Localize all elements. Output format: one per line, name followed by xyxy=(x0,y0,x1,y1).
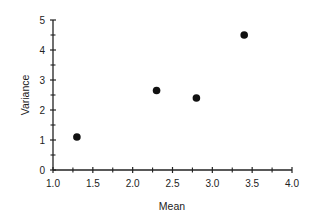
x-tick-label: 1.0 xyxy=(46,178,60,189)
y-tick-label: 1 xyxy=(39,135,45,146)
x-tick-label: 3.0 xyxy=(205,178,219,189)
data-point xyxy=(193,94,201,102)
x-tick-label: 1.5 xyxy=(86,178,100,189)
y-axis-label: Variance xyxy=(19,75,31,116)
x-axis: 1.01.52.02.53.03.54.0 xyxy=(46,167,299,189)
y-tick-label: 2 xyxy=(39,105,45,116)
x-tick-label: 4.0 xyxy=(285,178,299,189)
y-axis: 012345 xyxy=(39,15,56,176)
y-tick-label: 3 xyxy=(39,75,45,86)
x-tick-label: 2.5 xyxy=(166,178,180,189)
x-tick-label: 2.0 xyxy=(126,178,140,189)
y-tick-label: 5 xyxy=(39,15,45,26)
data-point xyxy=(240,31,248,39)
x-axis-label: Mean xyxy=(159,200,185,212)
scatter-chart: 012345 1.01.52.02.53.03.54.0 Mean Varian… xyxy=(0,0,316,217)
data-points xyxy=(73,31,248,141)
data-point xyxy=(73,133,81,141)
y-tick-label: 0 xyxy=(39,165,45,176)
x-tick-label: 3.5 xyxy=(245,178,259,189)
data-point xyxy=(153,87,161,95)
chart-canvas: 012345 1.01.52.02.53.03.54.0 Mean Varian… xyxy=(0,0,316,217)
y-tick-label: 4 xyxy=(39,45,45,56)
